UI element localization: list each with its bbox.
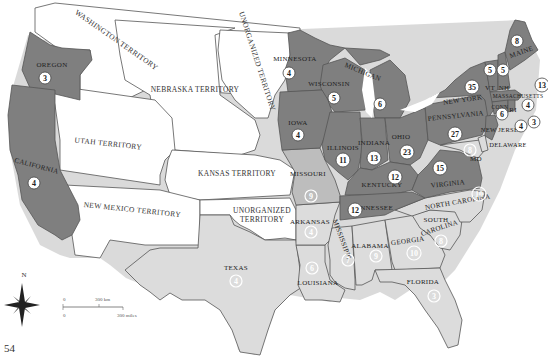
- label-ohio: OHIO: [392, 133, 411, 141]
- electoral-map: WASHINGTON TERRITORY NEBRASKA TERRITORY …: [0, 0, 548, 362]
- vote-count-maine: 8: [515, 37, 519, 46]
- label-arkansas: ARKANSAS: [290, 218, 330, 226]
- label-nebraska-territory: NEBRASKA TERRITORY: [151, 85, 240, 94]
- vote-count-delaware: 3: [530, 143, 534, 152]
- vote-count-georgia: 10: [410, 249, 418, 258]
- vote-count-missouri: 9: [309, 192, 313, 201]
- label-unorganized-territory-south: UNORGANIZED: [233, 206, 291, 215]
- vote-count-vermont: 5: [488, 66, 492, 75]
- page-number: 54: [4, 342, 15, 354]
- compass-rose: N: [4, 271, 40, 327]
- label-minnesota: MINNESOTA: [273, 55, 316, 63]
- label-iowa: IOWA: [288, 119, 307, 127]
- scale-km-label: 300 km: [95, 297, 110, 302]
- compass-star-icon: [4, 283, 40, 327]
- vote-count-california: 4: [32, 179, 36, 188]
- label-louisiana: LOUISIANA: [298, 279, 339, 287]
- label-illinois: ILLINOIS: [327, 144, 359, 152]
- label-oregon: OREGON: [37, 61, 68, 69]
- vote-count-connecticut: 6: [500, 110, 504, 119]
- vote-count-michigan: 6: [378, 100, 382, 109]
- label-missouri: MISSOURI: [290, 170, 326, 178]
- scale-mi-label: 300 miles: [117, 313, 137, 318]
- compass-north-label: N: [21, 271, 26, 279]
- scale-bar: 0 300 km 0 300 miles: [63, 297, 137, 318]
- vote-count-minnesota: 4: [287, 69, 291, 78]
- scale-km-zero: 0: [63, 297, 66, 302]
- vote-count-oregon: 3: [43, 74, 47, 83]
- vote-count-ohio: 23: [403, 148, 411, 157]
- label-delaware: DELAWARE: [489, 141, 527, 148]
- vote-count-arkansas: 4: [309, 228, 313, 237]
- label-vermont: VT: [485, 84, 495, 92]
- scale-mi-zero: 0: [63, 313, 66, 318]
- vote-count-kentucky: 12: [391, 173, 399, 182]
- vote-count-rhode-island: 4: [526, 101, 530, 110]
- vote-count-new-york: 35: [468, 83, 476, 92]
- label-florida: FLORIDA: [407, 278, 439, 286]
- vote-count-massachusetts: 13: [538, 81, 546, 90]
- vote-count-mississippi: 7: [346, 256, 350, 265]
- label-texas: TEXAS: [224, 264, 248, 272]
- vote-count-new-jersey: 4: [519, 122, 523, 131]
- label-wisconsin: WISCONSIN: [308, 80, 350, 88]
- label-unorganized-territory-south-2: TERRITORY: [240, 215, 285, 224]
- vote-count-south-carolina: 8: [439, 237, 443, 246]
- label-massachusetts: MASSACHUSETTS: [493, 93, 544, 99]
- vote-count-virginia: 15: [436, 164, 444, 173]
- vote-count-illinois: 11: [339, 156, 347, 165]
- vote-count-iowa: 4: [296, 131, 300, 140]
- vote-count-new-hampshire: 5: [501, 66, 505, 75]
- vote-count-florida: 3: [432, 292, 436, 301]
- label-alabama: ALABAMA: [351, 242, 389, 250]
- label-indiana: INDIANA: [358, 139, 390, 147]
- vote-count-alabama: 9: [374, 252, 378, 261]
- vote-count-texas: 4: [234, 277, 238, 286]
- vote-count-maryland: 8: [468, 146, 472, 155]
- vote-count-tennessee: 12: [351, 206, 359, 215]
- vote-count-new-jersey-2: 3: [532, 118, 536, 127]
- label-new-hampshire: NH: [499, 84, 510, 92]
- vote-count-pennsylvania: 27: [451, 130, 459, 139]
- vote-count-louisiana: 6: [310, 264, 314, 273]
- vote-count-wisconsin: 5: [332, 94, 336, 103]
- label-rhode-island: RI: [509, 106, 517, 114]
- label-kansas-territory: KANSAS TERRITORY: [198, 169, 276, 178]
- vote-count-indiana: 13: [370, 154, 378, 163]
- vote-count-north-carolina: 10: [475, 190, 483, 199]
